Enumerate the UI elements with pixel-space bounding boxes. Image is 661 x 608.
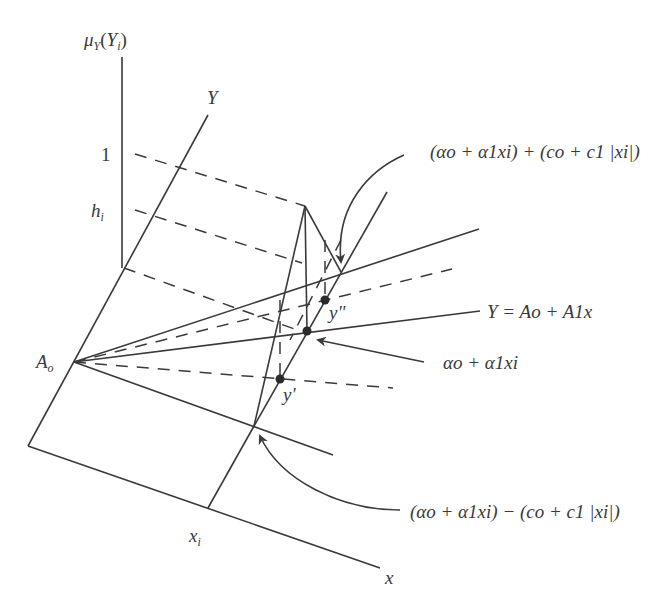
level-zero-dashed xyxy=(124,268,300,331)
triangle-right-leg xyxy=(305,206,341,272)
triangle-center xyxy=(305,206,307,331)
upper-bound-arrow xyxy=(340,155,404,262)
xi-slice-line xyxy=(254,192,387,426)
regression-line xyxy=(74,311,480,362)
lower-bound-arrow xyxy=(260,436,400,510)
center-arrow xyxy=(318,340,424,362)
lower-bound-label: (αo + α1xi) − (co + c1 |xi|) xyxy=(410,502,620,521)
xi-line xyxy=(208,426,254,508)
y-axis xyxy=(28,115,208,446)
triangle-inner-dashed xyxy=(290,240,341,340)
y-axis-label: Y xyxy=(207,88,218,107)
lower-spread-line xyxy=(74,362,333,455)
x-axis-label: x xyxy=(385,568,393,587)
center-point xyxy=(303,327,312,336)
lower-dashed-line xyxy=(74,362,393,388)
mu-axis-label: μY(Yi) xyxy=(84,30,127,52)
h-tick-label: hi xyxy=(91,201,104,223)
center-value-label: αo + α1xi xyxy=(443,353,518,372)
y-prime-point xyxy=(276,375,285,384)
level-h-dashed xyxy=(135,210,302,263)
y-double-prime-label: y" xyxy=(329,303,345,322)
upper-bound-label: (αo + α1xi) + (co + c1 |xi|) xyxy=(430,142,640,161)
one-tick-label: 1 xyxy=(101,145,111,164)
y-prime-label: y' xyxy=(283,385,296,404)
upper-dashed-line xyxy=(74,269,452,362)
level-one-dashed xyxy=(135,154,305,206)
regression-line-label: Y = Ao + A1x xyxy=(487,302,592,321)
x-axis xyxy=(28,446,380,568)
a0-label: Ao xyxy=(36,352,54,374)
xi-label: xi xyxy=(189,526,201,548)
